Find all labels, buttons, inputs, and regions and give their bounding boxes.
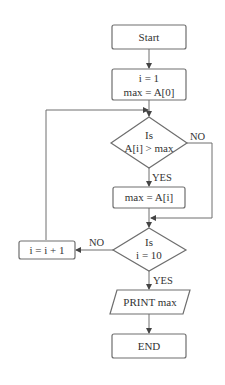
compare-no-label: NO (190, 131, 206, 142)
start-node: Start (112, 25, 186, 49)
compare-decision: Is A[i] > max (111, 117, 187, 168)
init-node: i = 1 max = A[0] (112, 69, 186, 100)
print-node: PRINT max (110, 290, 190, 314)
compare-yes-label: YES (152, 172, 172, 183)
print-label: PRINT max (123, 296, 177, 308)
compare-line1: Is (145, 129, 153, 141)
check-yes-label: YES (153, 275, 173, 286)
check-line2: i = 10 (136, 249, 162, 261)
end-node: END (112, 334, 186, 358)
check-no-label: NO (89, 237, 105, 248)
increment-node: i = i + 1 (19, 241, 75, 259)
compare-line2: A[i] > max (125, 142, 174, 154)
start-label: Start (139, 31, 160, 43)
assign-label: max = A[i] (125, 191, 173, 203)
check-line1: Is (145, 236, 153, 248)
init-line1: i = 1 (139, 72, 159, 84)
end-label: END (138, 340, 161, 352)
flowchart-canvas: Start i = 1 max = A[0] Is A[i] > max NO … (0, 0, 225, 385)
check-decision: Is i = 10 (113, 228, 186, 271)
assign-node: max = A[i] (113, 187, 185, 208)
increment-label: i = i + 1 (29, 244, 64, 256)
init-line2: max = A[0] (124, 86, 175, 98)
